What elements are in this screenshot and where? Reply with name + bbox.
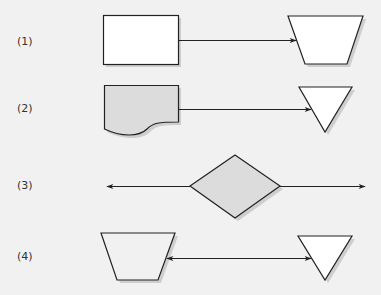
document-shape: [105, 86, 179, 136]
process-rectangle: [104, 16, 179, 65]
row-2: [105, 86, 356, 139]
row-1: [104, 16, 367, 68]
row-3: [107, 155, 365, 221]
row-4: [101, 233, 355, 283]
diagram-canvas: (1) (2) (3) (4): [0, 0, 381, 295]
flowchart-symbols: [0, 0, 381, 295]
decision-diamond: [190, 155, 280, 218]
